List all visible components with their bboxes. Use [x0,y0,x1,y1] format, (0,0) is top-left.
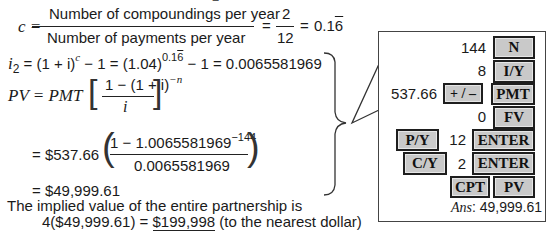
key-iy[interactable]: I/Y [493,60,535,83]
answer-value: : 49,999.61 [472,199,542,215]
key-enter-2[interactable]: ENTER [472,152,535,175]
answer-label: Ans [451,200,472,215]
key-cpt[interactable]: CPT [450,176,490,198]
key-plus-minus[interactable]: + / – [443,83,483,104]
value-cy: 2 [450,155,466,172]
callout-pointer-icon [352,64,379,123]
answer-display: Ans: 49,999.61 [451,199,542,216]
key-enter-1[interactable]: ENTER [472,129,535,151]
key-py[interactable]: P/Y [396,129,439,151]
value-py: 12 [442,131,466,148]
value-pmt: 537.66 [385,85,437,102]
key-cy[interactable]: C/Y [403,152,447,175]
key-fv[interactable]: FV [493,106,535,129]
key-pmt[interactable]: PMT [491,83,535,105]
key-pv[interactable]: PV [493,176,535,198]
value-iy: 8 [440,62,486,79]
value-fv: 0 [440,108,486,125]
curly-brace-icon [324,53,346,195]
value-n: 144 [440,39,486,56]
key-n[interactable]: N [493,36,535,59]
